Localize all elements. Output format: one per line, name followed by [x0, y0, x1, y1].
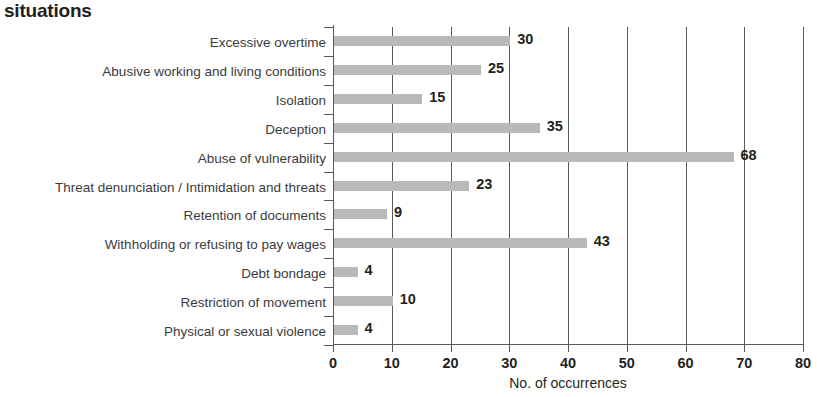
bar	[334, 296, 393, 306]
bar	[334, 209, 387, 219]
plot-area: 3025153568239434104	[333, 27, 803, 345]
category-label: Excessive overtime	[0, 36, 326, 50]
category-label: Physical or sexual violence	[0, 325, 326, 339]
category-label: Deception	[0, 123, 326, 137]
bar-row: 15	[333, 85, 803, 114]
bar-row: 4	[333, 316, 803, 345]
category-label: Retention of documents	[0, 209, 326, 223]
bar-row: 9	[333, 200, 803, 229]
bar-value-label: 4	[365, 320, 373, 336]
category-label: Threat denunciation / Intimidation and t…	[0, 181, 326, 195]
bar-row: 10	[333, 287, 803, 316]
y-axis-tick	[324, 114, 333, 115]
category-label: Isolation	[0, 94, 326, 108]
category-label: Withholding or refusing to pay wages	[0, 238, 326, 252]
x-axis-tick-label: 30	[501, 355, 517, 371]
x-axis-tick	[686, 345, 687, 352]
bar	[334, 94, 422, 104]
y-axis-tick	[324, 85, 333, 86]
x-axis-tick	[803, 345, 804, 352]
bar-value-label: 30	[517, 31, 533, 47]
y-axis-tick	[324, 172, 333, 173]
x-axis-tick	[627, 345, 628, 352]
category-label-column: Excessive overtimeAbusive working and li…	[0, 27, 326, 345]
y-axis-tick	[324, 229, 333, 230]
y-axis-tick	[324, 258, 333, 259]
y-axis-tick	[324, 200, 333, 201]
category-label: Abuse of vulnerability	[0, 152, 326, 166]
x-axis-tick	[392, 345, 393, 352]
x-axis-tick	[451, 345, 452, 352]
bar	[334, 36, 510, 46]
x-axis-tick-label: 40	[560, 355, 576, 371]
category-label: Restriction of movement	[0, 296, 326, 310]
x-axis-tick-labels: 01020304050607080	[333, 355, 803, 375]
bar-row: 23	[333, 172, 803, 201]
bar	[334, 65, 481, 75]
category-label: Abusive working and living conditions	[0, 65, 326, 79]
bar-row: 68	[333, 143, 803, 172]
y-axis-tick	[324, 316, 333, 317]
x-axis-tick-label: 60	[677, 355, 693, 371]
bar	[334, 267, 358, 277]
y-axis-tick	[324, 287, 333, 288]
x-axis-tick-label: 0	[329, 355, 337, 371]
bar-row: 4	[333, 258, 803, 287]
bar-value-label: 23	[476, 176, 492, 192]
x-axis-tick	[509, 345, 510, 352]
x-axis-tick	[744, 345, 745, 352]
bar	[334, 152, 734, 162]
x-axis-title: No. of occurrences	[333, 375, 803, 391]
bar-value-label: 9	[394, 204, 402, 220]
bar-value-label: 4	[365, 262, 373, 278]
bar-value-label: 25	[488, 60, 504, 76]
x-axis-tick	[333, 345, 334, 352]
bar	[334, 123, 540, 133]
bar-value-label: 15	[429, 89, 445, 105]
bar	[334, 181, 469, 191]
y-axis-tick	[324, 56, 333, 57]
page-title: situations	[4, 0, 92, 22]
bar-value-label: 35	[547, 118, 563, 134]
category-label: Debt bondage	[0, 267, 326, 281]
x-axis-tick	[568, 345, 569, 352]
bar-chart-figure: situations Excessive overtimeAbusive wor…	[0, 0, 817, 397]
x-axis-tick-label: 70	[736, 355, 752, 371]
x-axis-tick-label: 10	[384, 355, 400, 371]
bar-value-label: 10	[400, 291, 416, 307]
bar-value-label: 68	[741, 147, 757, 163]
gridline	[803, 27, 804, 345]
x-axis-tick-label: 50	[619, 355, 635, 371]
y-axis-tick	[324, 27, 333, 28]
bar-row: 35	[333, 114, 803, 143]
bar	[334, 238, 587, 248]
bar-value-label: 43	[594, 233, 610, 249]
bar-row: 25	[333, 56, 803, 85]
bar-row: 43	[333, 229, 803, 258]
bar-row: 30	[333, 27, 803, 56]
x-axis-tick-label: 80	[795, 355, 811, 371]
x-axis-tick-label: 20	[442, 355, 458, 371]
bar	[334, 325, 358, 335]
y-axis-tick	[324, 345, 333, 346]
y-axis-tick	[324, 143, 333, 144]
